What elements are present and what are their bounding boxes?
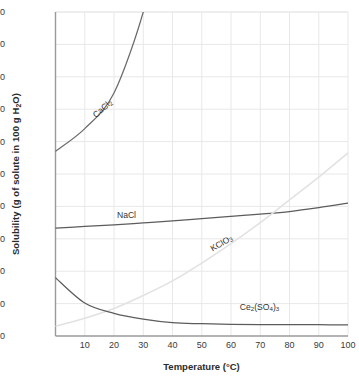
solubility-chart: Solubility (g of solute in 100 g H2O) 01… — [0, 0, 359, 381]
gridlines — [56, 12, 349, 336]
curve-cacl2 — [56, 0, 150, 151]
series-label-ce2(so4)3: Ce2(SO4)3 — [240, 302, 280, 312]
series-label-nacl: NaCl — [117, 210, 136, 220]
plot-area — [0, 0, 359, 381]
x-tick-label: 100 — [328, 340, 359, 350]
x-axis-title: Temperature (°C) — [55, 361, 348, 372]
